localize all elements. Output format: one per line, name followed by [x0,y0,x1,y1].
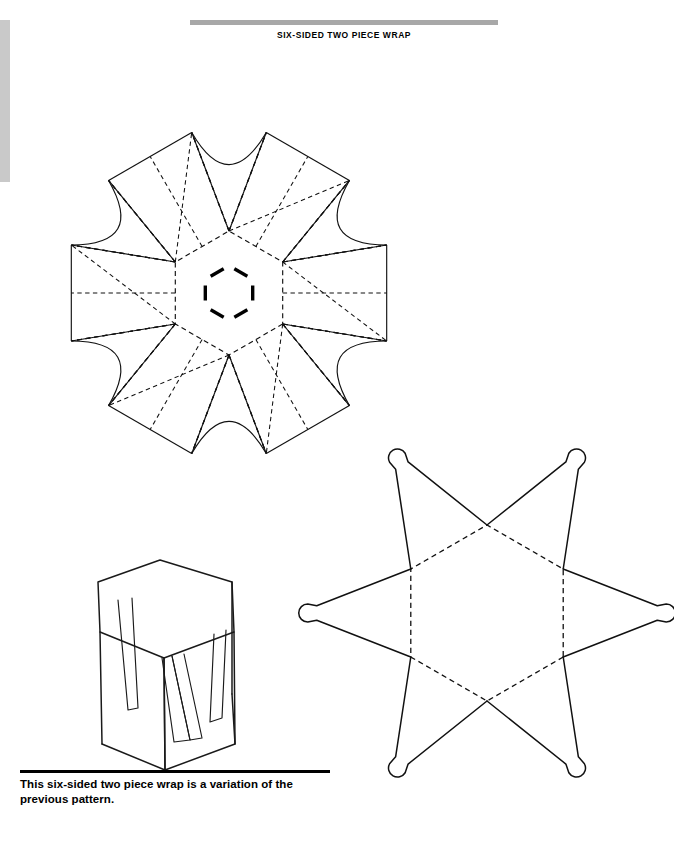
star-point-cut [388,449,487,569]
box-flap-vee-3 [172,654,202,740]
box-flap-vee-2 [162,656,190,742]
tuck-slot [234,269,247,277]
flap-centre-fold [256,156,308,246]
flap-gap-arc [71,180,121,245]
figure-caption: This six-sided two piece wrap is a varia… [20,777,334,806]
box-flap-vee-1 [118,598,138,710]
star-central-hexagon-fold [411,525,563,701]
flap-gap-arc [192,132,267,164]
flap-gap-arc [337,180,387,245]
flap-diagonal-fold [175,132,191,262]
flap-diagonal-fold [266,324,282,454]
flap-gap-arc [192,421,267,453]
star-flat-pattern [299,449,674,777]
assembled-box-sketch [98,560,235,770]
flap-centre-fold [150,340,202,430]
star-point-cut [299,569,411,657]
star-point-cut [388,657,487,777]
flap-gap-arc [71,341,121,406]
flap-diagonal-fold [109,355,229,406]
wrap-flat-pattern [71,132,386,453]
flap-centre-fold [150,156,202,246]
tuck-slot [211,269,224,277]
star-point-cut [563,569,674,657]
diagram-layer [0,0,674,848]
central-hexagon-fold [175,231,282,355]
flap-gap-arc [337,341,387,406]
box-front-corner-edge [164,658,165,770]
flap-centre-fold [256,340,308,430]
flap-diagonal-fold [283,262,387,341]
tuck-slot [211,310,224,318]
flap-diagonal-fold [71,245,175,324]
star-point-cut [487,657,586,777]
page-canvas: SIX-SIDED TWO PIECE WRAP This six-sided … [0,0,674,848]
flap-diagonal-fold [229,180,349,231]
tuck-slot [234,310,247,318]
box-flap-vee-4 [210,630,226,722]
box-vertical-edge [100,632,102,744]
caption-rule [20,770,330,773]
star-point-cut [487,449,586,569]
